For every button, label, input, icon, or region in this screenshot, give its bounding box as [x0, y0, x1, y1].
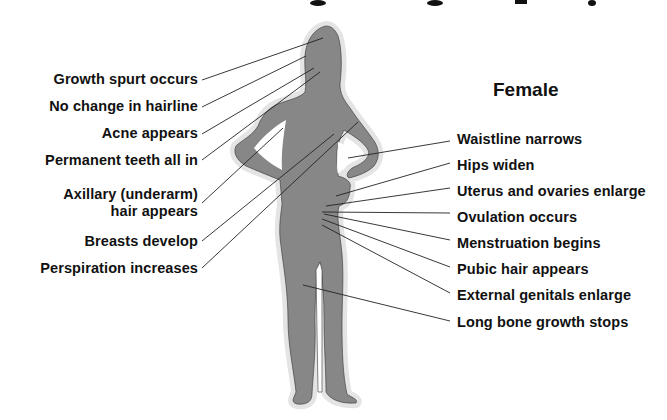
label-waistline: Waistline narrows: [457, 131, 582, 148]
label-permanent-teeth: Permanent teeth all in: [45, 152, 198, 169]
label-acne: Acne appears: [102, 125, 198, 142]
label-hips: Hips widen: [457, 157, 535, 174]
female-silhouette: [235, 26, 378, 404]
figure-sex-label: Female: [493, 79, 558, 101]
label-pubic-hair: Pubic hair appears: [457, 261, 589, 278]
label-hairline: No change in hairline: [49, 98, 198, 115]
label-axillary-hair-line2: hair appears: [111, 203, 198, 220]
label-perspiration: Perspiration increases: [40, 260, 198, 277]
label-long-bone: Long bone growth stops: [457, 314, 628, 331]
label-external-genitals: External genitals enlarge: [457, 287, 631, 304]
label-menstruation: Menstruation begins: [457, 235, 601, 252]
label-ovulation: Ovulation occurs: [457, 209, 577, 226]
label-growth-spurt: Growth spurt occurs: [54, 71, 199, 88]
label-uterus-ovaries: Uterus and ovaries enlarge: [457, 183, 646, 200]
label-axillary-hair-line1: Axillary (underarm): [63, 186, 198, 203]
label-breasts-develop: Breasts develop: [84, 233, 198, 250]
cropped-title-fragments: [310, 0, 596, 6]
